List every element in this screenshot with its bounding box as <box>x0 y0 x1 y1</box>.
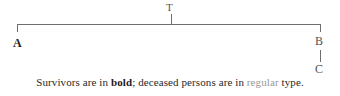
figure-caption: Survivors are in bold; deceased persons … <box>0 76 340 89</box>
caption-regular-word: regular <box>247 76 279 88</box>
node-label-t: T <box>166 2 173 13</box>
node-label-a: A <box>13 37 22 49</box>
bracket-horizontal-line <box>17 24 321 25</box>
caption-part-1: Survivors are in <box>36 76 111 88</box>
node-label-b: B <box>315 35 323 47</box>
figure-container: T A B C Survivors are in bold; deceased … <box>0 0 340 96</box>
bracket-center-tick <box>171 14 172 25</box>
descent-line-b-to-c <box>320 50 321 62</box>
bracket-right-end-tick <box>320 24 321 32</box>
caption-part-3: type. <box>279 76 304 88</box>
bracket-left-end-tick <box>17 24 18 32</box>
node-label-c: C <box>315 63 323 75</box>
caption-bold-word: bold <box>111 76 132 88</box>
caption-part-2: ; deceased persons are in <box>132 76 247 88</box>
